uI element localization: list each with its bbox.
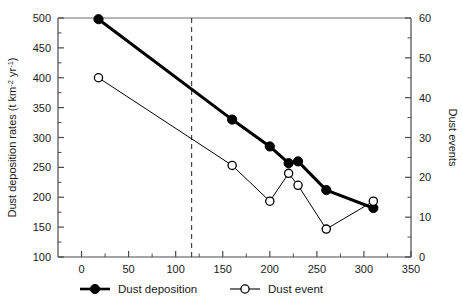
y-axis-ticks: 100150200250300350400450500 <box>33 12 64 263</box>
y-tick-label: 400 <box>33 72 51 84</box>
chart-figure: 050100150200250300350 100150200250300350… <box>0 0 462 306</box>
x-tick-label: 200 <box>261 263 279 275</box>
data-point-filled <box>265 142 274 151</box>
x-tick-label: 350 <box>402 263 420 275</box>
data-point-filled <box>228 115 237 124</box>
data-point-filled <box>94 15 103 24</box>
x-tick-label: 150 <box>214 263 232 275</box>
y2-axis-ticks: 0102030405060 <box>405 12 431 263</box>
data-point-filled <box>293 157 302 166</box>
y2-axis-title: Dust events <box>447 108 459 167</box>
chart-svg: 050100150200250300350 100150200250300350… <box>0 0 462 306</box>
y-tick-label: 450 <box>33 42 51 54</box>
legend-marker-filled-circle-icon <box>90 284 99 293</box>
x-tick-label: 250 <box>308 263 326 275</box>
y-tick-label: 350 <box>33 102 51 114</box>
x-tick-label: 50 <box>122 263 134 275</box>
x-tick-label: 0 <box>78 263 84 275</box>
x-tick-label: 300 <box>355 263 373 275</box>
data-point-open <box>94 74 102 82</box>
x-axis-ticks: 050100150200250300350 <box>78 251 420 275</box>
y-tick-label: 300 <box>33 132 51 144</box>
y2-tick-label: 0 <box>419 251 425 263</box>
chart-legend: Dust depositionDust event <box>80 283 324 295</box>
y2-tick-label: 40 <box>419 92 431 104</box>
axes-frame <box>58 18 411 257</box>
axis-titles: Dust deposition rates (t km-2 yr-1)Dust … <box>6 57 459 217</box>
y-tick-label: 200 <box>33 191 51 203</box>
series-line-0 <box>98 19 373 208</box>
y2-tick-label: 10 <box>419 211 431 223</box>
data-point-open <box>228 161 236 169</box>
x-tick-label: 100 <box>166 263 184 275</box>
data-point-open <box>294 181 302 189</box>
data-point-filled <box>322 185 331 194</box>
y2-tick-label: 20 <box>419 171 431 183</box>
y-tick-label: 100 <box>33 251 51 263</box>
y2-tick-label: 30 <box>419 132 431 144</box>
series-line-1 <box>98 78 373 229</box>
y2-tick-label: 50 <box>419 52 431 64</box>
data-point-open <box>322 225 330 233</box>
legend-marker-open-circle-icon <box>241 285 249 293</box>
legend-label-1: Dust event <box>268 283 324 295</box>
series-lines <box>98 19 373 229</box>
y-tick-label: 500 <box>33 12 51 24</box>
data-point-open <box>369 197 377 205</box>
y-tick-label: 150 <box>33 221 51 233</box>
y-tick-label: 250 <box>33 161 51 173</box>
y-axis-title: Dust deposition rates (t km-2 yr-1) <box>6 57 18 217</box>
data-point-open <box>266 197 274 205</box>
y2-tick-label: 60 <box>419 12 431 24</box>
legend-label-0: Dust deposition <box>118 283 197 295</box>
data-point-filled <box>284 159 293 168</box>
data-point-open <box>285 169 293 177</box>
